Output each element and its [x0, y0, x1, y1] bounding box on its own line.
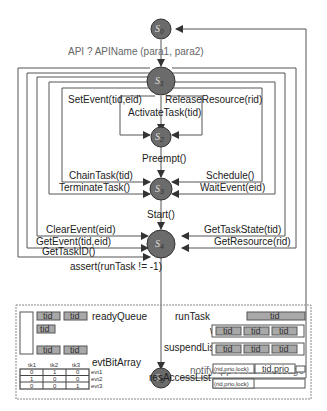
label-getresource: GetResource(rid) [214, 236, 291, 247]
label-assert: assert(runTask != -1) [70, 261, 162, 272]
svg-text:tid: tid [43, 311, 53, 321]
svg-text:tid: tid [223, 326, 233, 336]
svg-text:tid,prio: tid,prio [262, 364, 289, 374]
svg-text:tk2: tk2 [50, 362, 59, 368]
svg-text:(rid,prio,lock): (rid,prio,lock) [214, 366, 249, 372]
state-s2: S2 [151, 127, 171, 147]
svg-text:(rid,prio,lock): (rid,prio,lock) [214, 381, 249, 387]
svg-text:tid: tid [279, 326, 289, 336]
label-chaintask: ChainTask(tid) [69, 170, 133, 181]
label-releaseresource: ReleaseResource(rid) [165, 94, 262, 105]
label-setevent: SetEvent(tid,eid) [68, 94, 142, 105]
state-s3: S3 [150, 178, 172, 200]
svg-text:tid: tid [251, 344, 261, 354]
svg-text:tid: tid [251, 326, 261, 336]
svg-text:tid: tid [43, 345, 53, 355]
label-activatetask: ActivateTask(tid) [128, 107, 201, 118]
svg-text:tid: tid [40, 324, 50, 334]
svg-text:tid: tid [270, 311, 280, 321]
svg-text:evt1: evt1 [91, 369, 103, 375]
svg-text:tk3: tk3 [72, 362, 81, 368]
svg-text:tid: tid [223, 344, 233, 354]
suspend-list-label: suspendList [164, 342, 218, 353]
state-s0: S0 [151, 19, 171, 39]
label-clearevent: ClearEvent(eid) [46, 224, 115, 235]
evt-bit-array: tk1 tk2 tk3 0 1 0 1 0 0 0 0 1 evt1 evt2 … [20, 362, 103, 389]
svg-text:evt3: evt3 [91, 383, 103, 389]
res-access-list: (rid,prio,lock) tid,prio (rid,prio,lock) [213, 364, 305, 388]
svg-text:tid: tid [70, 311, 80, 321]
ready-queue-label: readyQueue [92, 311, 147, 322]
ready-queue-container [20, 312, 33, 354]
suspend-list: tid tid tid [212, 343, 304, 355]
label-waitevent: WaitEvent(eid) [200, 182, 265, 193]
run-task: tid [247, 311, 305, 321]
label-terminatetask: TerminateTask() [59, 182, 130, 193]
res-access-list-label: resAccessList [149, 372, 211, 383]
state-s4: S4 [147, 230, 175, 258]
label-gettaskid: GetTaskID() [42, 246, 95, 257]
state-s1: S1 [147, 67, 175, 95]
wait-list: tid tid tid [212, 325, 304, 337]
state-diagram: API ? APIName (para1, para2) notifyApp !… [0, 0, 327, 411]
label-schedule: Schedule() [206, 170, 254, 181]
run-task-label: runTask [175, 311, 211, 322]
label-preempt: Preempt() [142, 153, 186, 164]
svg-text:tk1: tk1 [28, 362, 37, 368]
ready-queue: tid tid tid tid tid [37, 311, 87, 355]
svg-text:tid: tid [279, 344, 289, 354]
label-start: Start() [147, 209, 175, 220]
label-gettaskstate: GetTaskState(tid) [204, 224, 281, 235]
label-api-call: API ? APIName (para1, para2) [68, 46, 204, 57]
svg-text:tid: tid [70, 345, 80, 355]
svg-text:evt2: evt2 [91, 376, 103, 382]
evt-bit-array-label: evtBitArray [92, 357, 141, 368]
